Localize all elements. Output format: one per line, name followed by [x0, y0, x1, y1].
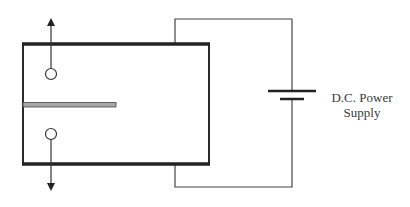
battery-icon	[268, 91, 316, 99]
power-supply-label-line1: D.C. Power	[331, 90, 393, 105]
wire-bottom	[175, 99, 292, 187]
wire-top	[175, 19, 292, 91]
lower-particle-icon	[46, 129, 57, 140]
lower-particle-group	[46, 129, 57, 188]
gray-rod	[23, 103, 116, 108]
power-supply-label-line2: Supply	[344, 105, 381, 120]
circuit-diagram: D.C. Power Supply	[0, 0, 410, 207]
upper-particle-group	[46, 22, 57, 80]
power-supply-label: D.C. Power Supply	[331, 90, 393, 120]
upper-particle-icon	[46, 69, 57, 80]
